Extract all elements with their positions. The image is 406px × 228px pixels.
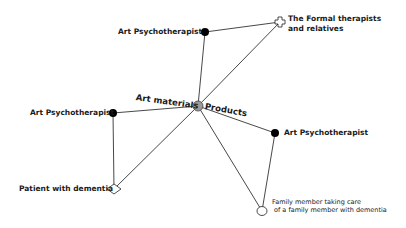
edge-hub-ap_top	[198, 32, 205, 106]
edge-ap_top-formal	[205, 22, 280, 32]
label-formal-therapists-line2: and relatives	[288, 24, 381, 34]
nodes	[107, 17, 285, 216]
node-family-circle-icon	[257, 207, 267, 216]
label-art-psychotherapist-top: Art Psychotherapist	[118, 27, 202, 37]
edge-hub-patient	[114, 106, 198, 189]
label-family-member-line1: Family member taking care	[272, 198, 387, 206]
label-art-psychotherapist-left: Art Psychotherapist	[30, 108, 114, 118]
node-ap_top-dot-icon	[201, 28, 209, 36]
node-ap_right-dot-icon	[271, 129, 279, 137]
edge-hub-family	[198, 106, 262, 211]
label-patient-with-dementia: Patient with dementia	[19, 184, 113, 194]
label-formal-therapists-line1: The Formal therapists	[288, 14, 381, 24]
edges	[113, 22, 280, 211]
label-family-member: Family member taking care of a family me…	[272, 198, 387, 215]
label-formal-therapists: The Formal therapists and relatives	[288, 14, 381, 34]
edge-ap_left-patient	[113, 113, 114, 189]
edge-hub-formal	[198, 22, 280, 106]
label-family-member-line2: of a family member with dementia	[272, 206, 387, 214]
label-art-psychotherapist-right: Art Psychotherapist	[284, 128, 368, 138]
